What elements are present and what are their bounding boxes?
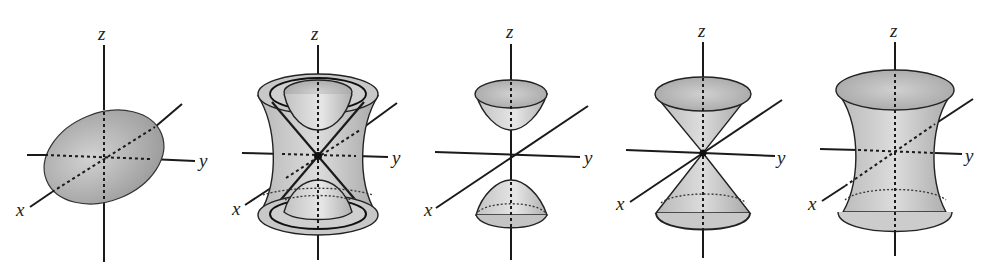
x-axis-upper — [155, 104, 182, 127]
y-axis-right — [935, 153, 962, 154]
y-label: y — [582, 147, 593, 168]
quadric-surfaces-figure: z y x z y x — [0, 0, 1008, 271]
panel-hyperboloid-two-sheets: z y x — [423, 21, 593, 260]
x-label: x — [231, 198, 241, 219]
y-axis-left — [626, 150, 703, 153]
origin-vertex — [314, 152, 322, 160]
upper-cone-rim — [655, 77, 751, 111]
y-axis — [435, 152, 580, 157]
y-axis-left — [820, 149, 858, 150]
panel-elliptic-cone: z y x — [615, 20, 786, 258]
z-label: z — [505, 21, 514, 42]
z-label: z — [97, 23, 106, 44]
panel-ellipsoid: z y x — [15, 23, 208, 262]
y-label: y — [197, 150, 208, 171]
z-label: z — [310, 23, 319, 44]
lower-sheet-surface — [476, 180, 547, 215]
y-axis-right — [703, 153, 775, 156]
x-label: x — [15, 199, 25, 220]
panel-hyperboloid-one-sheet: z y x — [807, 20, 974, 256]
lower-cone-rim — [656, 213, 750, 230]
x-axis-lower — [30, 192, 52, 207]
panel-quadric-family: z y x — [231, 23, 401, 260]
x-label: x — [615, 193, 625, 214]
z-label: z — [697, 20, 706, 41]
y-label: y — [963, 145, 974, 166]
x-label: x — [423, 199, 433, 220]
y-label: y — [390, 147, 401, 168]
cone-vertex — [700, 150, 707, 157]
y-label: y — [775, 147, 786, 168]
x-label: x — [807, 193, 817, 214]
z-label: z — [889, 20, 898, 41]
x-axis-lower — [822, 186, 845, 201]
